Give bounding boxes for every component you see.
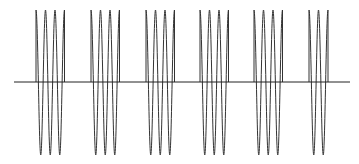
waveform-diagram: [0, 0, 359, 164]
